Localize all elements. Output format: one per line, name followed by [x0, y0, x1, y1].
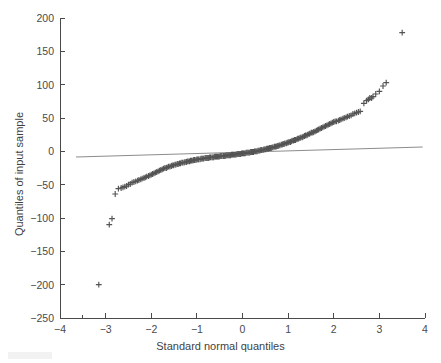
- y-tick-label: 50: [6, 112, 54, 124]
- x-tick-label: −4: [54, 323, 66, 335]
- y-tick-label: −100: [6, 212, 54, 224]
- y-tick-label: 200: [6, 12, 54, 24]
- y-tick-label: 0: [6, 145, 54, 157]
- x-tick-label: 0: [240, 323, 246, 335]
- data-point-marker: [96, 282, 102, 288]
- data-point-marker: [361, 100, 367, 106]
- data-point-marker: [383, 80, 389, 86]
- y-tick-label: −200: [6, 279, 54, 291]
- scatter-series: [96, 30, 405, 288]
- y-tick-label: 100: [6, 79, 54, 91]
- x-tick-label: −2: [145, 323, 157, 335]
- data-point-marker: [116, 186, 122, 192]
- x-tick-label: −3: [100, 323, 112, 335]
- x-tick-label: 4: [422, 323, 428, 335]
- data-point-marker: [373, 91, 379, 97]
- data-point-marker: [109, 216, 115, 222]
- x-axis-label: Standard normal quantiles: [0, 340, 441, 352]
- data-point-marker: [112, 191, 118, 197]
- y-tick-label: −150: [6, 245, 54, 257]
- y-tick-label: 150: [6, 45, 54, 57]
- x-tick-label: −1: [191, 323, 203, 335]
- data-point-marker: [380, 83, 386, 89]
- x-tick-label: 3: [376, 323, 382, 335]
- x-tick-label: 2: [331, 323, 337, 335]
- data-point-marker: [106, 222, 112, 228]
- data-point-marker: [399, 30, 405, 36]
- data-point-marker: [376, 88, 382, 94]
- figure-canvas: Quantiles of input sample Standard norma…: [0, 0, 441, 363]
- data-point-marker: [370, 94, 376, 100]
- x-tick-label: 1: [285, 323, 291, 335]
- y-tick-label: −250: [6, 312, 54, 324]
- plot-axes: [0, 0, 441, 363]
- y-tick-label: −50: [6, 179, 54, 191]
